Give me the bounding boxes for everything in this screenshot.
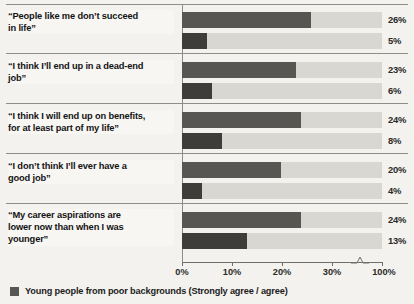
row-label-line: “My career aspirations are: [8, 209, 174, 221]
row-label: “I don’t think I’ll ever have a good job…: [8, 160, 174, 184]
axis-tick: [282, 262, 283, 266]
bar-value-label: 6%: [388, 85, 401, 96]
row-plot: 26% 5%: [175, 4, 414, 54]
bar-value-label: 20%: [388, 164, 406, 175]
legend: Young people from poor backgrounds (Stro…: [10, 286, 288, 296]
axis-tick: [232, 262, 233, 266]
row-plot: 24% 8%: [175, 104, 414, 154]
row-label: “People like me don’t succeed in life”: [8, 10, 174, 34]
row-label: “I think I will end up on benefits, for …: [8, 110, 174, 134]
x-axis: 0% 10% 20% 30% 100%: [175, 262, 414, 284]
row-plot: 20% 4%: [175, 154, 414, 204]
row-label-line: in life”: [8, 22, 174, 34]
row-label: “My career aspirations are lower now tha…: [8, 209, 174, 246]
bar-secondary: [182, 83, 212, 99]
bar-track: [182, 33, 382, 49]
axis-tick: [382, 262, 383, 266]
legend-swatch-icon: [10, 287, 19, 296]
row-label-line: job”: [8, 72, 174, 84]
chart-row: “I think I’ll end up in a dead-end job” …: [0, 54, 414, 104]
bar-secondary: [182, 33, 207, 49]
row-label-line: “I think I will end up on benefits,: [8, 110, 174, 122]
bar-value-label: 8%: [388, 135, 401, 146]
bar-track: [182, 112, 382, 128]
chart-row: “My career aspirations are lower now tha…: [0, 204, 414, 262]
chart-row: “I think I will end up on benefits, for …: [0, 104, 414, 154]
bar-value-label: 13%: [388, 235, 406, 246]
bar-primary: [182, 112, 301, 128]
chart-row: “I don’t think I’ll ever have a good job…: [0, 154, 414, 204]
axis-tick-label: 20%: [273, 267, 291, 277]
row-plot: 24% 13%: [175, 204, 414, 262]
bar-value-label: 24%: [388, 214, 406, 225]
row-plot: 23% 6%: [175, 54, 414, 104]
row-label-line: “I think I’ll end up in a dead-end: [8, 60, 174, 72]
chart-container: “People like me don’t succeed in life” 2…: [0, 0, 414, 304]
bar-secondary: [182, 133, 222, 149]
bar-track: [182, 212, 382, 228]
axis-tick-label: 100%: [372, 267, 396, 277]
bar-primary: [182, 162, 281, 178]
axis-tick: [182, 262, 183, 266]
bar-value-label: 4%: [388, 185, 401, 196]
bar-primary: [182, 62, 296, 78]
row-label-line: “People like me don’t succeed: [8, 10, 174, 22]
row-label-line: “I don’t think I’ll ever have a: [8, 160, 174, 172]
bar-track: [182, 233, 382, 249]
bar-value-label: 26%: [388, 14, 406, 25]
axis-break-icon: [351, 257, 369, 264]
bar-primary: [182, 12, 311, 28]
axis-tick-label: 10%: [223, 267, 241, 277]
row-label-line: younger”: [8, 233, 174, 245]
bar-value-label: 24%: [388, 114, 406, 125]
chart-row: “People like me don’t succeed in life” 2…: [0, 4, 414, 54]
row-label-line: lower now than when I was: [8, 221, 174, 233]
bar-track: [182, 62, 382, 78]
bar-track: [182, 83, 382, 99]
axis-tick-label: 30%: [323, 267, 341, 277]
row-label-line: for at least part of my life”: [8, 122, 174, 134]
bar-value-label: 23%: [388, 64, 406, 75]
axis-tick: [332, 262, 333, 266]
bar-track: [182, 183, 382, 199]
axis-tick-label: 0%: [175, 267, 188, 277]
bar-track: [182, 12, 382, 28]
bar-track: [182, 133, 382, 149]
bar-value-label: 5%: [388, 35, 401, 46]
bar-track: [182, 162, 382, 178]
row-label-line: good job”: [8, 172, 174, 184]
bar-secondary: [182, 233, 247, 249]
row-label: “I think I’ll end up in a dead-end job”: [8, 60, 174, 84]
legend-label: Young people from poor backgrounds (Stro…: [25, 286, 288, 296]
bar-primary: [182, 212, 301, 228]
bar-secondary: [182, 183, 202, 199]
